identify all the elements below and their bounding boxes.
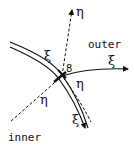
boundary-xi-lower-label: ξ (72, 112, 79, 127)
boundary-eta-label: η (76, 76, 84, 91)
inner-eta-axis (10, 76, 62, 122)
coordinate-diagram: η outer ξ ξ 8 η η ξ inner (0, 0, 134, 148)
boundary-xi-upper-label: ξ (44, 48, 51, 63)
inner-region-label: inner (8, 131, 41, 144)
outer-eta-label: η (76, 4, 84, 19)
outer-region-label: outer (88, 38, 121, 51)
inner-eta-label: η (40, 92, 48, 107)
point-label: 8 (66, 63, 72, 74)
outer-xi-label: ξ (108, 53, 115, 68)
